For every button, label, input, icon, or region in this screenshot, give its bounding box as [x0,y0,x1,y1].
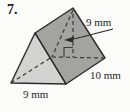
problem-number: 7. [7,3,18,17]
label-prism-length: 10 mm [90,70,121,81]
prism-figure: 7. 9 mm 10 mm 9 mm [0,0,130,112]
label-triangle-base: 9 mm [23,89,48,100]
label-triangle-height: 9 mm [86,17,111,28]
